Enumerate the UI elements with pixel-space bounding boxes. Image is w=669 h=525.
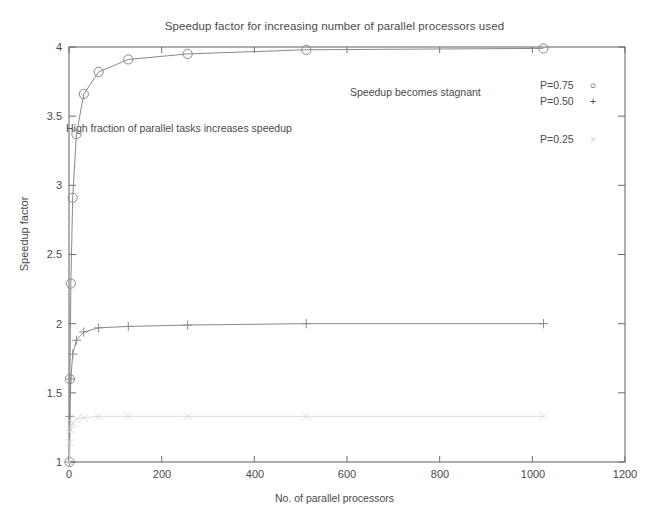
series-line-p-0-50 — [69, 324, 543, 462]
data-point-marker — [72, 415, 80, 423]
data-point-marker — [94, 323, 103, 332]
data-point-marker — [66, 374, 75, 383]
chart-figure: Speedup factor for increasing number of … — [0, 0, 669, 525]
data-point-marker — [183, 320, 192, 329]
series-line-p-0-75 — [69, 48, 543, 462]
data-point-marker — [124, 322, 133, 331]
plot-frame — [69, 47, 625, 462]
plot-area — [0, 0, 669, 525]
series-line-p-0-25 — [69, 416, 543, 462]
data-point-marker — [302, 319, 311, 328]
data-point-marker — [539, 319, 548, 328]
